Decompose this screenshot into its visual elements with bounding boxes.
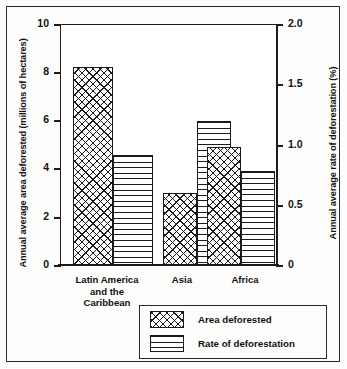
legend-label-rate-of-deforestation: Rate of deforestation [198, 338, 295, 349]
right-tick-0-5 [276, 205, 283, 207]
category-label-asia: Asia [152, 274, 212, 286]
bar-area-africa [207, 147, 241, 265]
right-ticklabel-0: 0 [288, 259, 328, 270]
left-tick-4 [54, 168, 61, 170]
right-tick-0 [276, 265, 283, 267]
deforestation-bar-chart-figure: Annual average area deforested (millions… [0, 0, 347, 369]
right-ticklabel-1-0: 1.0 [288, 139, 328, 150]
bar-rate-latin-america [113, 155, 153, 265]
bar-area-asia [163, 193, 197, 265]
right-tick-1-5 [276, 84, 283, 86]
right-ticklabel-2-0: 2.0 [288, 18, 328, 29]
bar-rate-africa [241, 171, 275, 265]
plot-area [61, 24, 276, 265]
left-ticklabel-8: 8 [9, 66, 49, 77]
left-ticklabel-4: 4 [9, 162, 49, 173]
legend-swatch-crosshatch-icon [150, 311, 184, 328]
right-axis-title: Annual average rate of deforestation (%) [328, 38, 338, 268]
right-tick-1-0 [276, 145, 283, 147]
left-ticklabel-10: 10 [9, 18, 49, 29]
left-tick-6 [54, 120, 61, 122]
legend-swatch-horizontal-lines-icon [150, 335, 184, 352]
left-tick-10 [54, 24, 61, 26]
right-ticklabel-0-5: 0.5 [288, 199, 328, 210]
legend: Area deforested Rate of deforestation [139, 305, 327, 359]
right-tick-2-0 [276, 24, 283, 26]
left-ticklabel-6: 6 [9, 114, 49, 125]
left-tick-0 [54, 265, 61, 267]
bar-area-latin-america [73, 67, 113, 265]
left-tick-8 [54, 72, 61, 74]
category-label-latin-america: Latin America and the Caribbean [57, 274, 157, 309]
left-tick-2 [54, 217, 61, 219]
left-ticklabel-2: 2 [9, 211, 49, 222]
legend-label-area-deforested: Area deforested [198, 314, 272, 325]
category-label-africa: Africa [214, 274, 276, 286]
right-ticklabel-1-5: 1.5 [288, 78, 328, 89]
left-ticklabel-0: 0 [9, 259, 49, 270]
